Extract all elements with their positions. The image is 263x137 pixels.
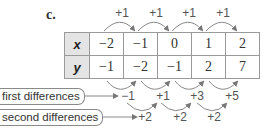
table-row-x: x −2 −1 0 1 2: [65, 33, 260, 56]
x-value: −2: [90, 33, 124, 56]
x-value: 0: [158, 33, 192, 56]
x-step-arrow: [206, 22, 236, 31]
first-difference-value: +1: [156, 89, 170, 103]
y-value: 2: [192, 56, 226, 79]
function-table: x −2 −1 0 1 2 y −1 −2 −1 2 7: [64, 32, 260, 79]
row-header-y: y: [65, 56, 90, 79]
second-difference-value: +2: [138, 110, 152, 124]
row-header-x: x: [65, 33, 90, 56]
y-value: −2: [124, 56, 158, 79]
first-difference-value: −1: [121, 89, 135, 103]
x-value: 1: [192, 33, 226, 56]
y-value: −1: [90, 56, 124, 79]
first-difference-value: +3: [190, 89, 204, 103]
second-difference-value: +2: [207, 110, 221, 124]
second-differences-label: second differences: [0, 109, 103, 126]
y-value: −1: [158, 56, 192, 79]
x-step-arrow: [104, 22, 134, 31]
second-difference-value: +2: [173, 110, 187, 124]
x-step-arrow: [172, 22, 202, 31]
x-step-arrow: [138, 22, 168, 31]
x-value: 2: [226, 33, 260, 56]
table-row-y: y −1 −2 −1 2 7: [65, 56, 260, 79]
first-differences-label: first differences: [0, 88, 85, 105]
first-difference-value: +5: [225, 89, 239, 103]
y-value: 7: [226, 56, 260, 79]
x-value: −1: [124, 33, 158, 56]
